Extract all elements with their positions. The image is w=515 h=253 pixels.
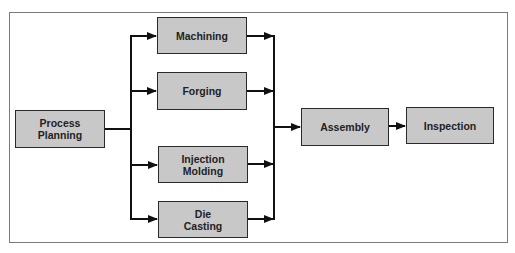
node-injection-molding: Injection Molding	[158, 146, 248, 183]
node-machining: Machining	[157, 17, 247, 54]
node-inspection: Inspection	[406, 107, 494, 144]
node-assembly: Assembly	[301, 108, 389, 146]
node-process-planning: Process Planning	[15, 110, 105, 148]
node-forging: Forging	[157, 72, 247, 110]
node-die-casting: Die Casting	[158, 201, 248, 238]
